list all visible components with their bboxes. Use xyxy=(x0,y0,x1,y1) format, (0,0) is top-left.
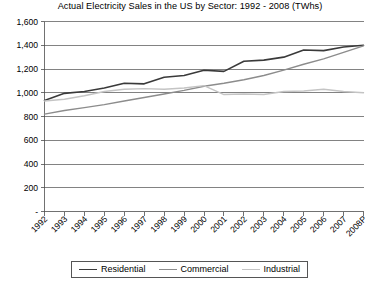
x-axis-tick-label: 1993 xyxy=(49,214,70,235)
legend-label: Industrial xyxy=(264,265,301,274)
x-axis-tick-label: 1992 xyxy=(29,214,50,235)
plot-area: 1,6001,4001,2001,000800600400200- 199219… xyxy=(0,0,380,287)
legend-label: Commercial xyxy=(181,265,229,274)
legend-entry-commercial[interactable]: Commercial xyxy=(159,265,229,274)
x-axis-tick-label: 2006 xyxy=(308,214,329,235)
x-axis-tick-label: 1999 xyxy=(168,214,189,235)
series-line-commercial xyxy=(45,46,364,114)
series-line-residential xyxy=(45,45,364,100)
y-axis-tick-label: 1,400 xyxy=(16,40,38,50)
x-axis-tick-label: 2000 xyxy=(188,214,209,235)
y-axis-tick-label: 400 xyxy=(24,159,39,169)
y-axis-tick-labels: 1,6001,4001,2001,000800600400200- xyxy=(16,17,38,217)
x-axis-tick-label: 2001 xyxy=(208,214,229,235)
x-axis-tick-labels: 1992199319941995199619971998199920002001… xyxy=(29,212,369,239)
x-axis-tick-label: 2003 xyxy=(248,214,269,235)
data-series xyxy=(45,45,364,114)
y-axis-tick-label: 1,600 xyxy=(16,17,38,27)
y-axis-tick-label: 600 xyxy=(24,135,39,145)
x-axis-tick-label: 1997 xyxy=(129,214,150,235)
x-axis-tick-label: 2005 xyxy=(288,214,309,235)
y-axis-tick-label: 1,000 xyxy=(16,88,38,98)
y-axis-tick-label: 1,200 xyxy=(16,64,38,74)
legend-swatch-commercial xyxy=(159,269,177,270)
electricity-sales-line-chart: Actual Electricity Sales in the US by Se… xyxy=(0,0,380,287)
x-axis-tick-label: 2002 xyxy=(228,214,249,235)
x-axis-tick-label: 1998 xyxy=(148,214,169,235)
x-axis-tick-label: 1995 xyxy=(89,214,110,235)
y-axis-tick-label: - xyxy=(35,207,38,217)
chart-legend: ResidentialCommercialIndustrial xyxy=(71,261,308,278)
series-line-industrial xyxy=(45,86,364,101)
legend-swatch-industrial xyxy=(242,269,260,270)
x-axis-tick-label: 1996 xyxy=(109,214,130,235)
legend-entry-residential[interactable]: Residential xyxy=(79,265,146,274)
legend-entry-industrial[interactable]: Industrial xyxy=(242,265,301,274)
legend-swatch-residential xyxy=(79,269,97,270)
y-axis-tick-label: 800 xyxy=(24,112,39,122)
x-axis-tick-label: 1994 xyxy=(69,214,90,235)
x-axis-tick-label: 2004 xyxy=(268,214,289,235)
y-axis-tick-label: 200 xyxy=(24,183,39,193)
legend-label: Residential xyxy=(101,265,146,274)
x-axis-tick-label: 2008P xyxy=(344,214,369,239)
